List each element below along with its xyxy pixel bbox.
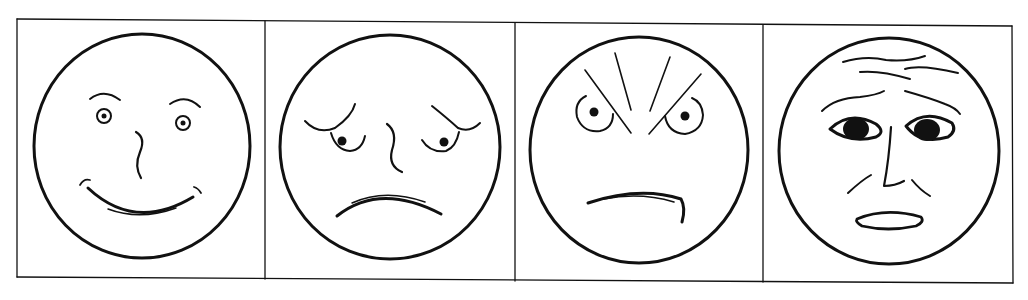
fearful-face-icon bbox=[779, 38, 999, 264]
sad-face-icon bbox=[280, 35, 500, 259]
angry-face-icon bbox=[530, 37, 748, 263]
happy-face-icon bbox=[34, 34, 250, 258]
faces-strip bbox=[0, 0, 1028, 300]
emotion-faces-figure bbox=[0, 0, 1028, 300]
